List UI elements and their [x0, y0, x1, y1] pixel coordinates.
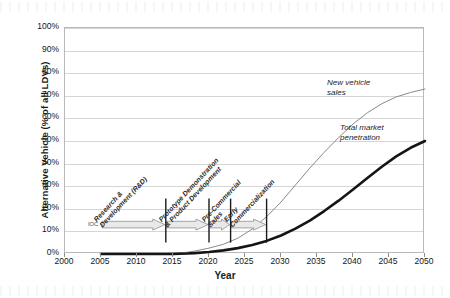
y-axis-tick-label: 100%: [19, 22, 59, 31]
series-callout-label: New vehicle sales: [327, 78, 370, 97]
y-axis-tick-label: 70%: [19, 90, 59, 99]
scan-artifact-top: [0, 2, 450, 12]
x-axis-tick-mark: [244, 253, 245, 257]
y-axis-tick-label: 60%: [19, 112, 59, 121]
y-axis-tick-label: 20%: [19, 203, 59, 212]
x-axis-tick-label: 2005: [80, 256, 120, 266]
x-axis-tick-mark: [64, 253, 65, 257]
ioc-label: IOC: [88, 221, 98, 228]
x-axis-tick-label: 2045: [368, 256, 408, 266]
chart-container: Alternative Vehicle (% of all LDVs) 0%10…: [0, 0, 450, 298]
x-axis-tick-mark: [316, 253, 317, 257]
x-axis-tick-mark: [424, 253, 425, 257]
x-axis-tick-mark: [136, 253, 137, 257]
x-axis-tick-label: 2040: [332, 256, 372, 266]
x-axis-title: Year: [0, 270, 450, 281]
x-axis-tick-mark: [280, 253, 281, 257]
x-axis-tick-label: 2030: [260, 256, 300, 266]
x-axis-tick-label: 2025: [224, 256, 264, 266]
y-axis-tick-label: 50%: [19, 135, 59, 144]
series-callout-label: Total market penetration: [340, 123, 384, 142]
y-axis-tick-label: 90%: [19, 45, 59, 54]
x-axis-tick-label: 2020: [188, 256, 228, 266]
y-axis-tick-label: 40%: [19, 158, 59, 167]
x-axis-tick-label: 2015: [152, 256, 192, 266]
x-axis-tick-mark: [352, 253, 353, 257]
x-axis-tick-label: 2035: [296, 256, 336, 266]
x-axis-tick-label: 2000: [44, 256, 84, 266]
x-axis-tick-mark: [172, 253, 173, 257]
x-axis-tick-label: 2050: [404, 256, 444, 266]
x-axis-tick-mark: [208, 253, 209, 257]
x-axis-tick-label: 2010: [116, 256, 156, 266]
scan-artifact-bottom: [0, 286, 450, 296]
y-axis-tick-label: 10%: [19, 225, 59, 234]
y-axis-tick-label: 30%: [19, 180, 59, 189]
y-axis-tick-label: 80%: [19, 67, 59, 76]
x-axis-tick-mark: [100, 253, 101, 257]
x-axis-tick-mark: [388, 253, 389, 257]
